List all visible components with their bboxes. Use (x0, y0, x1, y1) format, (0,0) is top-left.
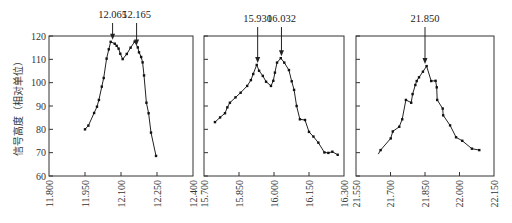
x-tick-label: 11.800 (44, 180, 55, 207)
arrowhead-icon (279, 50, 284, 56)
arrowhead-icon (423, 58, 428, 64)
data-point (283, 61, 285, 63)
data-point (246, 85, 248, 87)
data-point (312, 135, 314, 137)
data-point (274, 71, 276, 73)
arrowhead-icon (110, 34, 115, 40)
data-point (108, 48, 110, 50)
peak-label: 12.165 (122, 9, 151, 20)
data-point (478, 149, 480, 151)
data-point (145, 102, 147, 104)
data-point (280, 57, 282, 59)
data-point (214, 121, 216, 123)
data-point (288, 69, 290, 71)
data-point (436, 99, 438, 101)
x-tick-label: 12.400 (188, 180, 199, 208)
data-point (256, 64, 258, 66)
data-point (98, 99, 100, 101)
x-tick-label: 16.000 (269, 180, 280, 208)
x-tick-label: 16.150 (304, 180, 315, 208)
data-point (317, 141, 319, 143)
data-point (226, 106, 228, 108)
data-point (229, 102, 231, 104)
plot-frame (204, 36, 344, 176)
data-point (101, 85, 103, 87)
data-point (262, 75, 264, 77)
data-point (250, 79, 252, 81)
data-point (137, 46, 139, 48)
chart-panel-2: 15.70015.85016.00016.15016.30015.93016.0… (199, 13, 350, 208)
signal-curve (85, 42, 156, 156)
data-point (150, 131, 152, 133)
x-tick-label: 15.700 (199, 180, 210, 208)
data-point (449, 124, 451, 126)
data-point (265, 81, 267, 83)
data-point (331, 151, 333, 153)
data-point (140, 56, 142, 58)
data-point (239, 92, 241, 94)
data-point (304, 119, 306, 121)
data-point (252, 73, 254, 75)
data-point (219, 116, 221, 118)
x-tick-label: 12.100 (116, 180, 127, 208)
data-point (295, 105, 297, 107)
data-point (327, 152, 329, 154)
x-tick-label: 21.700 (385, 180, 396, 208)
y-tick-label: 80 (36, 124, 46, 135)
data-point (272, 80, 274, 82)
signal-curve (215, 58, 338, 155)
y-tick-label: 100 (31, 77, 46, 88)
data-point (258, 70, 260, 72)
chart-canvas: 信号高度（相对单位） 6070809010011012011.80011.950… (0, 0, 512, 223)
peak-label: 21.850 (411, 13, 440, 24)
plot-frame (49, 36, 193, 176)
data-point (109, 41, 111, 43)
data-point (276, 61, 278, 63)
data-point (119, 53, 121, 55)
signal-height-figure: 信号高度（相对单位） 6070809010011012011.80011.950… (0, 0, 512, 223)
data-point (323, 151, 325, 153)
data-point (155, 155, 157, 157)
data-point (398, 126, 400, 128)
data-point (115, 45, 117, 47)
data-point (87, 124, 89, 126)
y-axis-label: 信号高度（相对单位） (12, 56, 24, 156)
y-tick-label: 70 (36, 147, 46, 158)
data-point (422, 71, 424, 73)
x-tick-label: 15.850 (234, 180, 245, 208)
data-point (418, 76, 420, 78)
data-point (434, 80, 436, 82)
data-point (93, 112, 95, 114)
data-point (430, 80, 432, 82)
data-point (299, 118, 301, 120)
chart-panel-1: 6070809010011012011.80011.95012.10012.25… (31, 9, 199, 208)
data-point (141, 61, 143, 63)
data-point (234, 96, 236, 98)
y-tick-label: 120 (31, 31, 46, 42)
data-point (471, 148, 473, 150)
data-point (379, 149, 381, 151)
data-point (224, 112, 226, 114)
y-tick-label: 90 (36, 101, 46, 112)
data-point (138, 51, 140, 53)
data-point (414, 84, 416, 86)
data-point (337, 154, 339, 156)
data-point (105, 57, 107, 59)
peak-label: 16.032 (267, 13, 296, 24)
data-point (411, 93, 413, 95)
data-point (103, 77, 105, 79)
data-point (442, 107, 444, 109)
arrowhead-icon (255, 57, 260, 63)
data-point (114, 43, 116, 45)
y-tick-label: 110 (31, 54, 46, 65)
data-point (147, 112, 149, 114)
data-point (425, 65, 427, 67)
x-tick-label: 22.000 (454, 180, 465, 208)
data-point (405, 99, 407, 101)
x-tick-label: 16.300 (339, 180, 350, 208)
x-tick-label: 11.950 (80, 180, 91, 207)
data-point (390, 137, 392, 139)
data-point (442, 114, 444, 116)
data-point (96, 106, 98, 108)
chart-panel-3: 21.55021.70021.85022.00022.15021.850 (351, 13, 500, 208)
